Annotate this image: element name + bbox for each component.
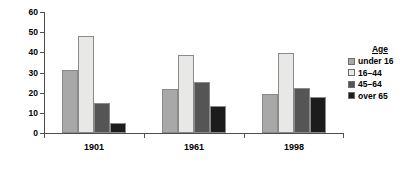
legend-item: over 65 [348,90,410,101]
legend-item: 16–44 [348,67,410,78]
x-axis-group-label: 1998 [264,142,324,152]
y-axis-tick-label: 20 [0,89,38,97]
legend-title: Age [354,44,406,55]
y-axis-tick [40,93,44,94]
bar [162,89,178,133]
y-axis-tick-label: 50 [0,28,38,36]
y-axis-tick [40,113,44,114]
x-axis-group-label: 1961 [164,142,224,152]
y-axis-tick-label: 40 [0,48,38,56]
bar [310,97,326,133]
bar [210,106,226,133]
x-axis-tick [244,134,245,138]
x-axis-tick [44,134,45,138]
bar [178,55,194,133]
y-axis-tick-label: 0 [0,129,38,137]
legend-item: under 16 [348,56,410,67]
bar [62,70,78,133]
legend-swatch-icon [348,58,355,65]
legend-item-label: over 65 [358,91,388,101]
y-axis-tick [40,52,44,53]
legend-rows: under 1616–4445–64over 65 [348,56,410,102]
legend-item-label: under 16 [358,56,393,66]
bar-chart-figure: Number of women in the UK (%) 0102030405… [0,0,412,169]
y-axis-tick-label: 10 [0,109,38,117]
y-axis-tick [40,32,44,33]
x-axis-line [44,133,344,134]
legend-swatch-icon [348,92,355,99]
bar [78,36,94,133]
x-axis-group-label: 1901 [64,142,124,152]
y-axis-tick-label: 30 [0,69,38,77]
y-axis-line [44,12,45,134]
y-axis-tick-label: 60 [0,8,38,16]
y-axis-tick [40,12,44,13]
x-axis-tick [144,134,145,138]
legend-item-label: 45–64 [358,79,382,89]
bar [278,53,294,133]
legend: Age under 1616–4445–64over 65 [348,44,410,101]
legend-item: 45–64 [348,79,410,90]
legend-item-label: 16–44 [358,68,382,78]
bar [110,123,126,133]
plot-area: 0102030405060 190119611998 [44,12,344,134]
bar [94,103,110,133]
y-axis-tick [40,73,44,74]
bar [294,88,310,133]
bar [194,82,210,133]
bar [262,94,278,133]
legend-swatch-icon [348,81,355,88]
legend-swatch-icon [348,69,355,76]
x-axis-tick [343,134,344,138]
